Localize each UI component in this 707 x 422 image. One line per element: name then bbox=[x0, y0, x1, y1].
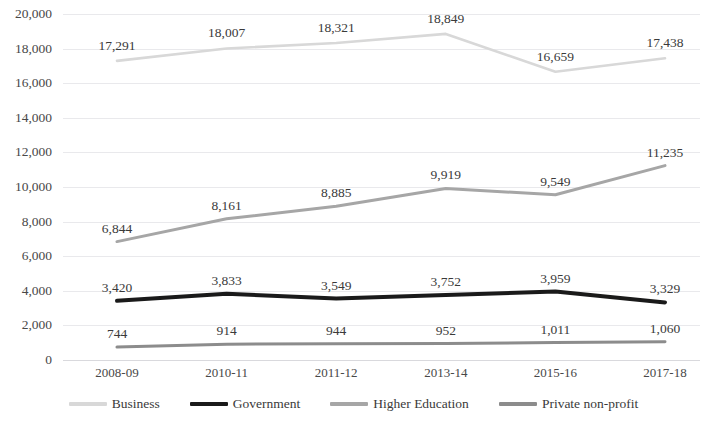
data-point-label: 11,235 bbox=[622, 146, 707, 160]
data-point-label: 1,011 bbox=[512, 323, 598, 337]
data-point-label: 16,659 bbox=[512, 50, 598, 64]
data-point-label: 914 bbox=[184, 324, 270, 338]
legend-label: Higher Education bbox=[373, 397, 469, 411]
chart-legend: BusinessGovernmentHigher EducationPrivat… bbox=[0, 392, 707, 416]
data-point-label: 3,752 bbox=[403, 275, 489, 289]
data-point-label: 1,060 bbox=[622, 322, 707, 336]
legend-swatch-icon bbox=[69, 402, 107, 406]
legend-label: Business bbox=[112, 397, 160, 411]
legend-label: Private non-profit bbox=[542, 397, 638, 411]
data-point-label: 952 bbox=[403, 324, 489, 338]
legend-label: Government bbox=[233, 397, 300, 411]
legend-item-higher-education[interactable]: Higher Education bbox=[330, 397, 469, 411]
data-point-label: 8,885 bbox=[293, 186, 379, 200]
data-point-label: 9,549 bbox=[512, 175, 598, 189]
data-point-label: 18,849 bbox=[403, 12, 489, 26]
legend-item-business[interactable]: Business bbox=[69, 397, 160, 411]
legend-item-private-non-profit[interactable]: Private non-profit bbox=[499, 397, 638, 411]
data-point-label: 944 bbox=[293, 324, 379, 338]
data-point-label: 6,844 bbox=[74, 222, 160, 236]
data-point-label: 3,329 bbox=[622, 282, 707, 296]
legend-swatch-icon bbox=[190, 402, 228, 406]
data-point-label: 18,007 bbox=[184, 26, 270, 40]
data-point-label: 9,919 bbox=[403, 168, 489, 182]
legend-item-government[interactable]: Government bbox=[190, 397, 300, 411]
data-point-label: 17,438 bbox=[622, 36, 707, 50]
data-point-label: 17,291 bbox=[74, 39, 160, 53]
data-point-label: 744 bbox=[74, 327, 160, 341]
data-point-label: 8,161 bbox=[184, 199, 270, 213]
data-point-label: 3,549 bbox=[293, 279, 379, 293]
legend-swatch-icon bbox=[499, 402, 537, 406]
data-labels-layer: 17,29118,00718,32118,84916,65917,4383,42… bbox=[0, 0, 707, 422]
line-chart: 02,0004,0006,0008,00010,00012,00014,0001… bbox=[0, 0, 707, 422]
data-point-label: 3,420 bbox=[74, 281, 160, 295]
data-point-label: 3,833 bbox=[184, 274, 270, 288]
data-point-label: 3,959 bbox=[512, 272, 598, 286]
data-point-label: 18,321 bbox=[293, 21, 379, 35]
legend-swatch-icon bbox=[330, 402, 368, 406]
